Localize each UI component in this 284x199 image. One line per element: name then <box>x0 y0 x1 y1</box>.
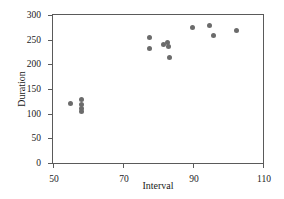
y-axis-tick: 100 <box>48 114 53 115</box>
data-point <box>207 23 212 28</box>
data-point <box>190 25 195 30</box>
x-axis-tick: 110 <box>263 163 264 168</box>
y-axis-tick-label: 250 <box>27 36 41 46</box>
y-axis-tick: 300 <box>48 15 53 16</box>
data-point <box>147 46 152 51</box>
scatter-plot-figure: 050100150200250300507090110 Interval Dur… <box>0 0 284 199</box>
y-axis-tick: 200 <box>48 64 53 65</box>
x-axis-tick: 50 <box>53 163 54 168</box>
data-point <box>166 44 171 49</box>
data-point <box>167 55 172 60</box>
y-axis-tick-label: 150 <box>27 85 41 95</box>
data-point <box>211 33 216 38</box>
y-axis-tick-label: 100 <box>27 110 41 120</box>
y-axis-tick: 50 <box>48 138 53 139</box>
y-axis-title: Duration <box>16 71 27 107</box>
y-axis-tick: 150 <box>48 89 53 90</box>
y-axis-tick-label: 50 <box>32 135 42 145</box>
x-axis-title: Interval <box>52 180 264 191</box>
data-point <box>147 35 152 40</box>
x-axis-tick: 90 <box>193 163 194 168</box>
y-axis-tick: 250 <box>48 40 53 41</box>
y-axis-tick-label: 0 <box>36 159 41 169</box>
plot-area: 050100150200250300507090110 <box>52 14 264 164</box>
data-point <box>68 101 73 106</box>
data-point <box>234 28 239 33</box>
y-axis-tick-label: 300 <box>27 11 41 21</box>
data-point <box>79 109 84 114</box>
x-axis-tick: 70 <box>123 163 124 168</box>
y-axis-tick-label: 200 <box>27 61 41 71</box>
